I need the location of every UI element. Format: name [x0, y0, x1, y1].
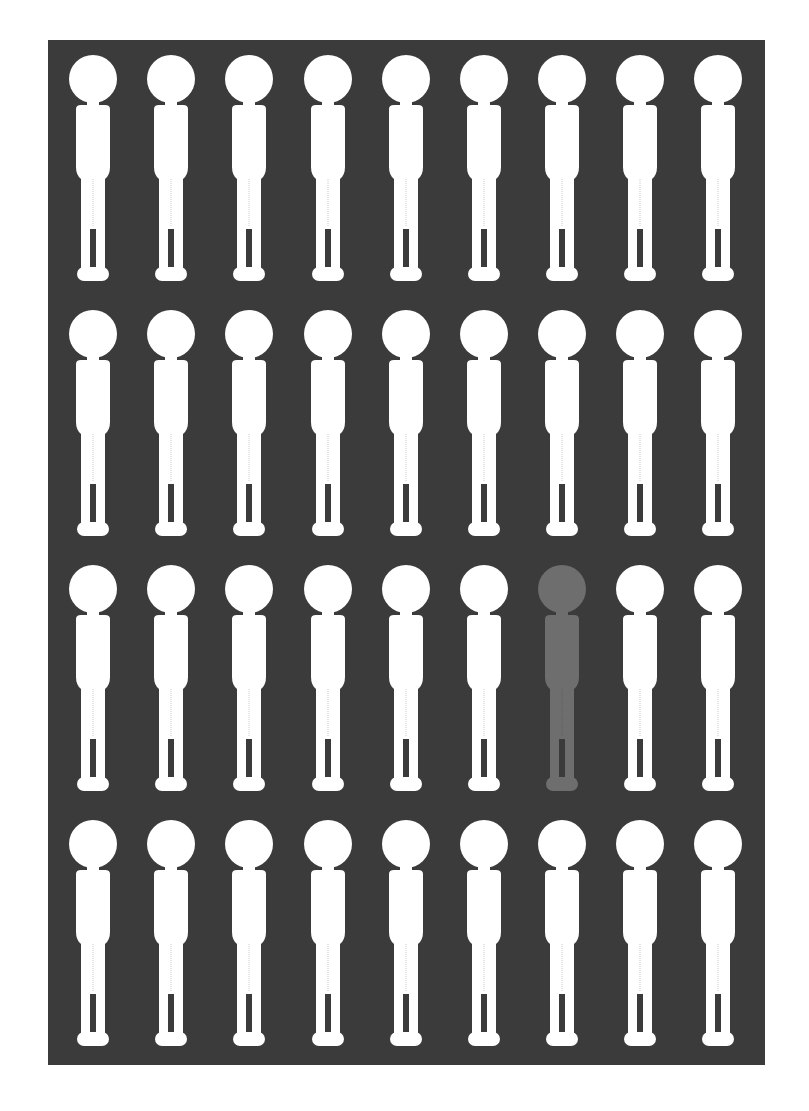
- person-icon: [536, 310, 588, 538]
- person-icon: [458, 820, 510, 1048]
- person-icon: [380, 565, 432, 793]
- person-icon: [614, 55, 666, 283]
- person-icon: [223, 820, 275, 1048]
- person-icon: [145, 820, 197, 1048]
- person-icon: [614, 565, 666, 793]
- person-icon: [145, 55, 197, 283]
- person-icon: [692, 55, 744, 283]
- person-icon: [67, 565, 119, 793]
- person-icon: [302, 565, 354, 793]
- person-icon: [302, 820, 354, 1048]
- person-icon: [302, 310, 354, 538]
- person-icon: [145, 310, 197, 538]
- person-icon: [223, 55, 275, 283]
- pictograph-panel: [48, 40, 765, 1065]
- person-icon: [380, 820, 432, 1048]
- figure-grid: [48, 40, 765, 1065]
- person-icon: [380, 310, 432, 538]
- person-icon: [536, 55, 588, 283]
- person-icon: [380, 55, 432, 283]
- person-icon: [67, 820, 119, 1048]
- person-icon: [692, 820, 744, 1048]
- person-icon: [458, 565, 510, 793]
- person-icon: [302, 55, 354, 283]
- person-icon: [223, 565, 275, 793]
- person-icon: [145, 565, 197, 793]
- person-icon: [614, 310, 666, 538]
- person-icon: [536, 820, 588, 1048]
- person-icon: [67, 55, 119, 283]
- person-icon: [692, 565, 744, 793]
- person-icon-highlighted: [536, 565, 588, 793]
- person-icon: [458, 310, 510, 538]
- person-icon: [67, 310, 119, 538]
- person-icon: [614, 820, 666, 1048]
- person-icon: [692, 310, 744, 538]
- person-icon: [223, 310, 275, 538]
- person-icon: [458, 55, 510, 283]
